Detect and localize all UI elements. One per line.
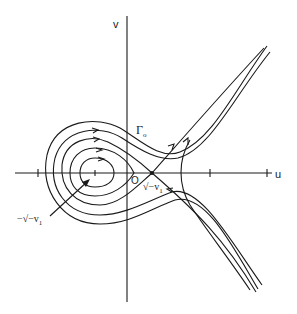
phase-portrait-diagram: v u O Γo √−v1 −√−v1 — [0, 0, 297, 314]
stable-manifold — [152, 173, 256, 292]
center-point-label: −√−v1 — [17, 213, 43, 227]
v-axis-label: v — [113, 18, 119, 30]
unstable-manifold — [152, 48, 264, 173]
outer-orbit — [54, 52, 270, 285]
u-axis-label: u — [275, 168, 281, 180]
arrow-icon — [93, 137, 99, 142]
saddle-point-label: √−v1 — [143, 181, 163, 195]
flow-arrows — [92, 128, 188, 192]
separatrix-label: Γo — [136, 123, 147, 139]
right-trajectory — [181, 140, 250, 290]
origin-label: O — [131, 175, 139, 186]
